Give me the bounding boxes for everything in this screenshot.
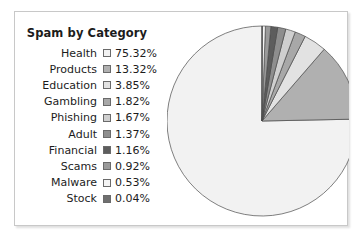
legend-row: Products13.32% — [15, 61, 167, 77]
legend-color-swatch — [103, 49, 111, 57]
legend-value: 1.16% — [115, 144, 159, 157]
legend-color-swatch — [103, 98, 111, 106]
legend-row: Stock0.04% — [15, 191, 167, 207]
legend-color-swatch — [103, 81, 111, 89]
legend-row: Gambling1.82% — [15, 94, 167, 110]
legend-value: 75.32% — [115, 47, 159, 60]
legend-row: Phishing1.67% — [15, 110, 167, 126]
legend-label: Gambling — [44, 95, 97, 108]
legend-color-swatch — [103, 162, 111, 170]
chart-title: Spam by Category — [15, 26, 167, 40]
legend-label: Health — [61, 47, 97, 60]
chart-legend: Spam by Category Health75.32%Products13.… — [15, 26, 167, 207]
legend-row: Scams0.92% — [15, 158, 167, 174]
legend-label: Phishing — [51, 111, 97, 124]
pie-chart-svg — [167, 12, 349, 225]
legend-label: Malware — [51, 176, 97, 189]
legend-color-swatch — [103, 114, 111, 122]
legend-row: Adult1.37% — [15, 126, 167, 142]
legend-row: Financial1.16% — [15, 142, 167, 158]
pie-chart — [167, 12, 349, 225]
legend-value: 0.92% — [115, 160, 159, 173]
legend-color-swatch — [103, 130, 111, 138]
legend-color-swatch — [103, 65, 111, 73]
legend-row: Malware0.53% — [15, 175, 167, 191]
legend-value: 13.32% — [115, 63, 159, 76]
legend-value: 1.82% — [115, 95, 159, 108]
legend-value: 1.67% — [115, 111, 159, 124]
legend-value: 3.85% — [115, 79, 159, 92]
pie-slice-group — [167, 26, 349, 216]
chart-frame: Spam by Category Health75.32%Products13.… — [14, 11, 348, 226]
legend-label: Financial — [49, 144, 97, 157]
legend-value: 0.53% — [115, 176, 159, 189]
legend-label: Scams — [61, 160, 97, 173]
legend-color-swatch — [103, 179, 111, 187]
legend-label: Products — [50, 63, 98, 76]
legend-row: Education3.85% — [15, 77, 167, 93]
legend-row-list: Health75.32%Products13.32%Education3.85%… — [15, 45, 167, 207]
legend-label: Education — [42, 79, 97, 92]
legend-label: Adult — [68, 128, 97, 141]
legend-color-swatch — [103, 195, 111, 203]
legend-value: 1.37% — [115, 128, 159, 141]
legend-color-swatch — [103, 146, 111, 154]
legend-row: Health75.32% — [15, 45, 167, 61]
legend-label: Stock — [67, 192, 97, 205]
legend-value: 0.04% — [115, 192, 159, 205]
